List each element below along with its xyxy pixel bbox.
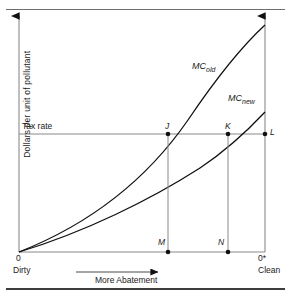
curve-label-mc-new: MCnew xyxy=(228,94,255,105)
y-axis-label: Dollars per unit of pollutant xyxy=(23,29,32,179)
point-label-n: N xyxy=(218,238,224,247)
curve-label-mc-old-sub: old xyxy=(206,66,215,73)
origin-sublabel-dirty: Dirty xyxy=(13,266,30,275)
point-label-k: K xyxy=(225,122,231,131)
curve-label-mc-old-main: MC xyxy=(192,61,206,71)
origin-label: 0 xyxy=(16,254,21,263)
point-label-j: J xyxy=(165,122,169,131)
tax-rate-label: Tax rate xyxy=(22,122,52,131)
point-m-marker xyxy=(166,250,171,255)
point-label-m: M xyxy=(158,238,165,247)
x-direction-label: More Abatement xyxy=(95,276,157,285)
point-k-marker xyxy=(226,132,231,137)
point-n-marker xyxy=(226,250,231,255)
point-l-marker xyxy=(263,132,268,137)
right-axis-label: 0* xyxy=(258,254,266,263)
curve-label-mc-new-main: MC xyxy=(228,93,242,103)
curve-label-mc-old: MCold xyxy=(192,62,215,73)
abatement-cost-figure: Dollars per unit of pollutant Tax rate M… xyxy=(0,0,291,296)
point-label-l: L xyxy=(270,128,275,137)
curve-label-mc-new-sub: new xyxy=(242,98,255,105)
figure-canvas xyxy=(0,0,291,296)
right-axis-sublabel-clean: Clean xyxy=(258,266,280,275)
point-j-marker xyxy=(166,132,171,137)
